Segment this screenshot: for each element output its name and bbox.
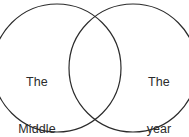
right-set-label-line-1: The <box>131 75 187 91</box>
right-set-label: The year 2000 <box>131 44 187 136</box>
right-set-label-line-2: year <box>131 122 187 137</box>
left-set-label-line-1: The <box>4 75 70 91</box>
left-set-label-line-2: Middle <box>4 122 70 137</box>
venn-diagram: The Middle Ages The year 2000 <box>0 0 189 136</box>
left-set-label: The Middle Ages <box>4 44 70 136</box>
